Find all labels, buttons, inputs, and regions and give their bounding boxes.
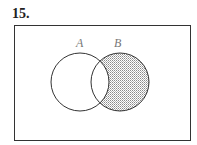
label-a: A — [75, 36, 84, 50]
label-b: B — [114, 36, 122, 50]
universal-set-rectangle — [15, 26, 191, 141]
venn-diagram: A B — [0, 0, 197, 145]
circle-a — [51, 53, 109, 111]
